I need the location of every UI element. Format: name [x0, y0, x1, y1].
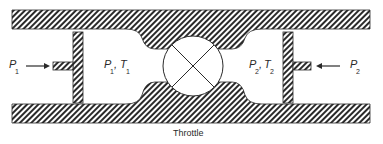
left-state-sep: ,: [114, 58, 117, 70]
caption-throttle: Throttle: [173, 128, 204, 138]
left-piston: [53, 32, 83, 103]
right-force-arrow-icon: [316, 63, 340, 69]
left-force-subscript: 1: [15, 68, 19, 75]
throttle-diagram: P 1 P 1 , T 1 P 2 , T 2 P 2 Throttle: [0, 0, 383, 144]
left-state-t-sub: 1: [126, 68, 130, 75]
throttle-valve-icon: [163, 36, 223, 96]
right-force-subscript: 2: [356, 68, 360, 75]
left-force-arrow-icon: [26, 63, 50, 69]
right-piston: [283, 32, 311, 103]
right-state-sep: ,: [259, 58, 262, 70]
right-state-t-sub: 2: [270, 68, 274, 75]
